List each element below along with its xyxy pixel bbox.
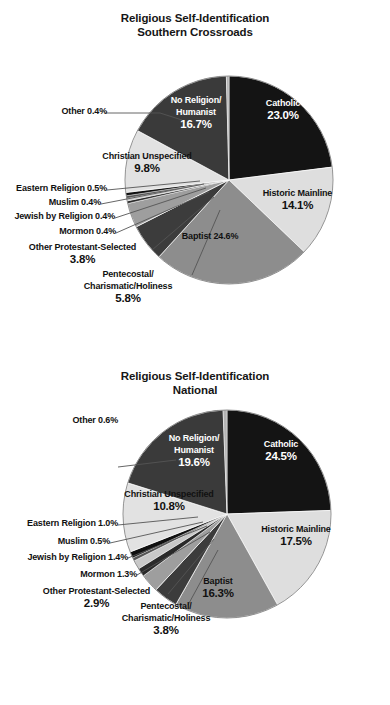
label-pentecostal-national: Pentecostal/ Charismatic/Holiness 3.8% [103, 600, 229, 636]
label-no-religion-national-l1: No Religion/ [146, 432, 242, 444]
label-muslim-national: Muslim 0.5% [10, 536, 110, 548]
label-other-protestant-southern: Other Protestant-Selected 3.8% [10, 241, 155, 265]
label-other-protestant-southern-pct: 3.8% [10, 253, 155, 265]
label-pentecostal-southern: Pentecostal/ Charismatic/Holiness 5.8% [65, 268, 191, 304]
label-muslim-southern-text: Muslim 0.4% [49, 197, 101, 207]
leader-muslim-national [110, 522, 203, 543]
label-no-religion-national-pct: 19.6% [146, 456, 242, 468]
label-catholic-southern-pct: 23.0% [238, 109, 328, 121]
label-eastern-religion-national-text: Eastern Religion 1.0% [27, 518, 118, 528]
label-muslim-southern: Muslim 0.4% [0, 197, 101, 209]
label-no-religion-national: No Religion/ Humanist 19.6% [146, 432, 242, 468]
label-mormon-national-text: Mormon 1.3% [80, 569, 137, 579]
label-historic-mainline-southern-pct: 14.1% [245, 199, 350, 211]
label-christian-unspecified-southern-text: Christian Unspecified [82, 150, 212, 162]
label-other-national-text: Other 0.6% [72, 415, 118, 425]
chart-southern-crossroads: Religious Self-Identification Southern C… [0, 0, 390, 360]
label-baptist-southern: Baptist 24.6% [155, 231, 265, 243]
label-other-national: Other 0.6% [20, 415, 118, 427]
label-baptist-national: Baptist 16.3% [178, 575, 258, 599]
leader-jewish-national [128, 526, 207, 558]
label-baptist-national-pct: 16.3% [178, 587, 258, 599]
label-baptist-southern-text: Baptist 24.6% [182, 231, 239, 241]
label-pentecostal-national-l2: Charismatic/Holiness [103, 612, 229, 624]
label-catholic-national-pct: 24.5% [236, 450, 326, 462]
label-no-religion-southern: No Religion/ Humanist 16.7% [148, 94, 244, 130]
label-pentecostal-southern-pct: 5.8% [65, 292, 191, 304]
label-historic-mainline-national-pct: 17.5% [242, 535, 350, 547]
label-historic-mainline-national-text: Historic Mainline [242, 523, 350, 535]
label-pentecostal-national-pct: 3.8% [103, 624, 229, 636]
label-other-southern: Other 0.4% [10, 106, 107, 118]
label-pentecostal-southern-l1: Pentecostal/ [65, 268, 191, 280]
label-mormon-national: Mormon 1.3% [10, 569, 137, 581]
label-other-protestant-southern-text: Other Protestant-Selected [10, 241, 155, 253]
label-christian-unspecified-southern: Christian Unspecified 9.8% [82, 150, 212, 174]
label-catholic-southern-text: Catholic [238, 97, 328, 109]
label-baptist-national-text: Baptist [178, 575, 258, 587]
label-no-religion-southern-pct: 16.7% [148, 118, 244, 130]
label-pentecostal-southern-l2: Charismatic/Holiness [65, 280, 191, 292]
label-mormon-southern: Mormon 0.4% [0, 226, 116, 238]
label-christian-unspecified-national: Christian Unspecified 10.8% [104, 488, 234, 512]
label-jewish-southern: Jewish by Religion 0.4% [0, 211, 115, 223]
label-pentecostal-national-l1: Pentecostal/ [103, 600, 229, 612]
label-jewish-national-text: Jewish by Religion 1.4% [27, 552, 128, 562]
leader-eastern-national [118, 517, 198, 525]
label-no-religion-southern-l1: No Religion/ [148, 94, 244, 106]
leader-lines-southern-crossroads [0, 0, 390, 360]
label-catholic-southern: Catholic 23.0% [238, 97, 328, 121]
label-jewish-southern-text: Jewish by Religion 0.4% [14, 211, 115, 221]
label-mormon-southern-text: Mormon 0.4% [59, 226, 116, 236]
label-christian-unspecified-southern-pct: 9.8% [82, 162, 212, 174]
label-historic-mainline-national: Historic Mainline 17.5% [242, 523, 350, 547]
leader-pentecostal [192, 210, 220, 275]
label-other-protestant-national-text: Other Protestant-Selected [24, 585, 169, 597]
label-no-religion-southern-l2: Humanist [148, 106, 244, 118]
label-eastern-religion-national: Eastern Religion 1.0% [10, 518, 118, 530]
chart-national: Religious Self-Identification National O… [0, 360, 390, 705]
label-christian-unspecified-national-text: Christian Unspecified [104, 488, 234, 500]
leader-mormon-national [137, 532, 210, 575]
label-eastern-religion-southern: Eastern Religion 0.5% [0, 183, 107, 195]
label-christian-unspecified-national-pct: 10.8% [104, 500, 234, 512]
label-eastern-religion-southern-text: Eastern Religion 0.5% [16, 183, 107, 193]
label-jewish-national: Jewish by Religion 1.4% [10, 552, 128, 564]
label-other-southern-text: Other 0.4% [61, 106, 107, 116]
leader-eastern [107, 181, 200, 190]
label-catholic-national: Catholic 24.5% [236, 438, 326, 462]
label-muslim-national-text: Muslim 0.5% [58, 536, 110, 546]
label-no-religion-national-l2: Humanist [146, 444, 242, 456]
label-catholic-national-text: Catholic [236, 438, 326, 450]
label-historic-mainline-southern: Historic Mainline 14.1% [245, 187, 350, 211]
label-historic-mainline-southern-text: Historic Mainline [245, 187, 350, 199]
